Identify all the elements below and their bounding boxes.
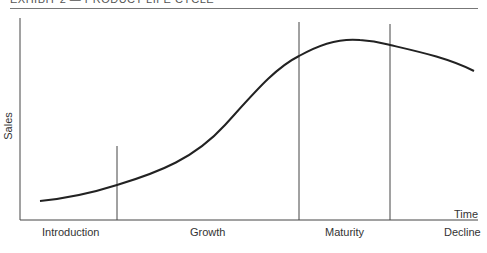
- stage-label-maturity: Maturity: [325, 226, 364, 238]
- stage-label-decline: Decline: [444, 226, 481, 238]
- sales-curve: [40, 40, 474, 201]
- y-axis-label: Sales: [2, 112, 14, 140]
- product-life-cycle-chart: [0, 0, 487, 253]
- stage-label-introduction: Introduction: [42, 226, 99, 238]
- stage-label-growth: Growth: [190, 226, 225, 238]
- x-axis-label: Time: [454, 208, 478, 220]
